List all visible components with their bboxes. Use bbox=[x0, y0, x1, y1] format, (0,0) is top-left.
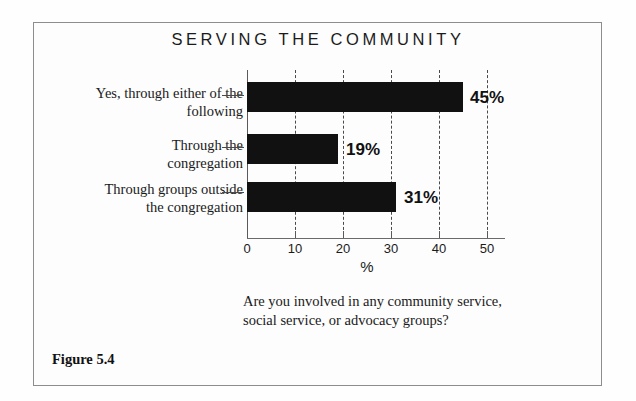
caption-line-1: Are you involved in any community servic… bbox=[243, 292, 543, 311]
category-label-1: Yes, through either of the following bbox=[28, 84, 243, 120]
bar-value-1: 45% bbox=[470, 88, 504, 108]
leader-line-1 bbox=[222, 95, 244, 96]
tick-mark-20 bbox=[343, 231, 344, 238]
tick-mark-0 bbox=[247, 231, 248, 238]
figure-container: SERVING THE COMMUNITY Yes, through eithe… bbox=[0, 0, 636, 401]
category-label-3-line-2: the congregation bbox=[28, 198, 243, 216]
leader-line-2 bbox=[222, 147, 244, 148]
category-label-2-line-1: Through the bbox=[28, 136, 243, 154]
bar-1 bbox=[247, 82, 463, 112]
caption-line-2: social service, or advocacy groups? bbox=[243, 311, 543, 330]
tick-mark-50 bbox=[487, 231, 488, 238]
x-axis-label: % bbox=[347, 258, 387, 275]
category-label-3: Through groups outside the congregation bbox=[28, 180, 243, 216]
category-label-2-line-2: congregation bbox=[28, 154, 243, 172]
bar-value-2: 19% bbox=[346, 140, 380, 160]
tick-mark-10 bbox=[295, 231, 296, 238]
tick-label-10: 10 bbox=[275, 241, 315, 256]
category-label-2: Through the congregation bbox=[28, 136, 243, 172]
bar-2 bbox=[247, 134, 338, 164]
bar-value-3: 31% bbox=[404, 188, 438, 208]
bar-3 bbox=[247, 182, 396, 212]
x-axis-line bbox=[247, 238, 505, 239]
category-label-1-line-1: Yes, through either of the bbox=[28, 84, 243, 102]
tick-label-0: 0 bbox=[227, 241, 267, 256]
tick-mark-30 bbox=[391, 231, 392, 238]
tick-label-30: 30 bbox=[371, 241, 411, 256]
tick-label-40: 40 bbox=[419, 241, 459, 256]
category-label-1-line-2: following bbox=[28, 102, 243, 120]
tick-mark-40 bbox=[439, 231, 440, 238]
chart-title: SERVING THE COMMUNITY bbox=[0, 30, 636, 49]
figure-caption: Are you involved in any community servic… bbox=[243, 292, 543, 330]
leader-line-3 bbox=[222, 192, 244, 193]
figure-number-label: Figure 5.4 bbox=[52, 351, 115, 368]
tick-label-50: 50 bbox=[467, 241, 507, 256]
category-label-3-line-1: Through groups outside bbox=[28, 180, 243, 198]
tick-label-20: 20 bbox=[323, 241, 363, 256]
